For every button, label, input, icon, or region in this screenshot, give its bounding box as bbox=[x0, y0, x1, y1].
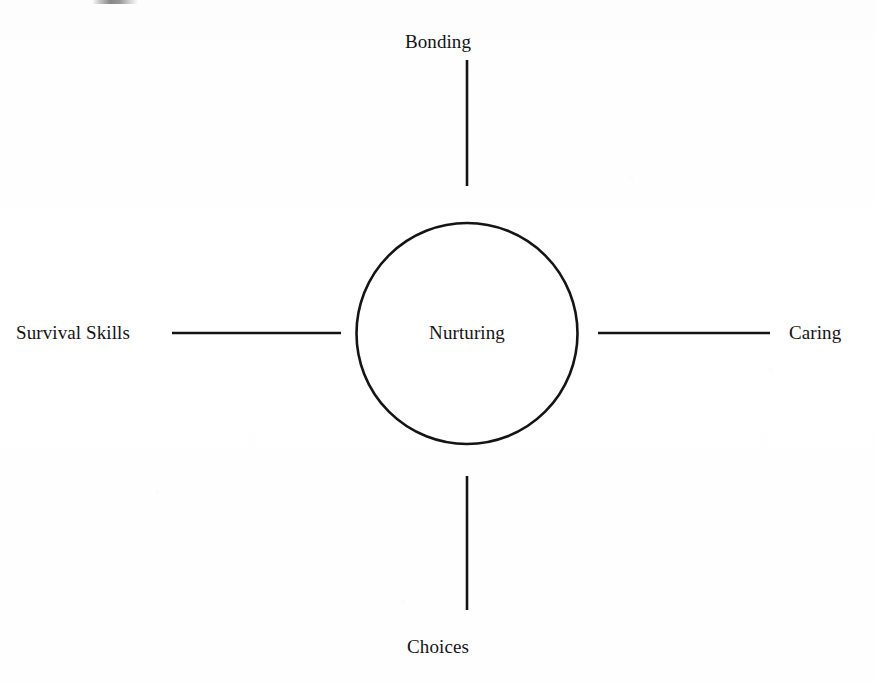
spoke-label-survival-skills: Survival Skills bbox=[16, 322, 130, 344]
spoke-label-caring: Caring bbox=[789, 322, 841, 344]
center-label-nurturing: Nurturing bbox=[356, 322, 578, 344]
spoke-label-choices: Choices bbox=[0, 636, 876, 658]
diagram-page: Bonding Caring Choices Survival Skills N… bbox=[0, 0, 876, 684]
spoke-label-bonding: Bonding bbox=[0, 31, 876, 53]
